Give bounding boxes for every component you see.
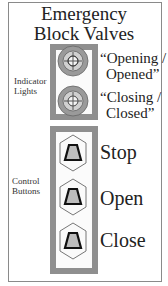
stop-button[interactable] — [59, 134, 87, 172]
close-label: Close — [100, 229, 146, 251]
light-label-opening-line-2: Opened” — [100, 66, 166, 82]
control-buttons-label: Control Buttons — [12, 176, 40, 196]
indicator-light-icon — [57, 85, 89, 117]
indicator-label-line-2: Lights — [14, 86, 46, 96]
open-label: Open — [100, 187, 143, 209]
close-button[interactable] — [59, 222, 87, 260]
indicator-light-icon — [57, 45, 89, 77]
light-label-opening: “Opening / Opened” — [100, 50, 166, 82]
light-label-closing-line-2: Closed” — [100, 105, 161, 121]
indicator-lights-label: Indicator Lights — [14, 76, 46, 96]
stop-label: Stop — [100, 141, 137, 163]
control-label-line-2: Buttons — [12, 186, 40, 196]
light-label-closing: “Closing / Closed” — [100, 89, 161, 121]
title-line-2: Block Valves — [0, 24, 168, 44]
control-label-line-1: Control — [12, 176, 40, 186]
light-label-opening-line-1: “Opening / — [100, 50, 166, 66]
title-line-1: Emergency — [0, 4, 168, 24]
indicator-label-line-1: Indicator — [14, 76, 46, 86]
light-label-closing-line-1: “Closing / — [100, 89, 161, 105]
open-button[interactable] — [59, 178, 87, 216]
